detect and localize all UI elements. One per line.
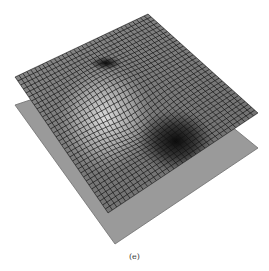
surface-mesh [15,14,258,213]
surface-plot-figure [0,0,269,271]
figure-caption: (e) [0,252,269,261]
